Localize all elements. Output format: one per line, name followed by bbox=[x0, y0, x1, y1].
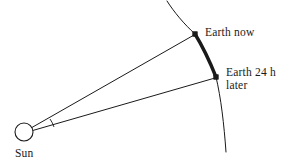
radius-line-earth-later bbox=[31, 78, 215, 131]
sun-circle-icon bbox=[15, 123, 33, 141]
earth-later-label-line1: Earth 24 h bbox=[226, 66, 276, 78]
earth-now-label: Earth now bbox=[205, 26, 254, 39]
sun-label: Sun bbox=[15, 147, 34, 160]
earth-later-marker bbox=[213, 74, 218, 79]
earth-later-label: Earth 24 hlater bbox=[226, 66, 276, 92]
traveled-arc-segment bbox=[195, 34, 216, 77]
earth-later-label-line2: later bbox=[226, 79, 247, 91]
earth-now-marker bbox=[192, 31, 197, 36]
radius-line-earth-now bbox=[31, 35, 194, 128]
orbit-arc-upper bbox=[167, 1, 195, 34]
orbit-arc-lower bbox=[216, 77, 226, 152]
